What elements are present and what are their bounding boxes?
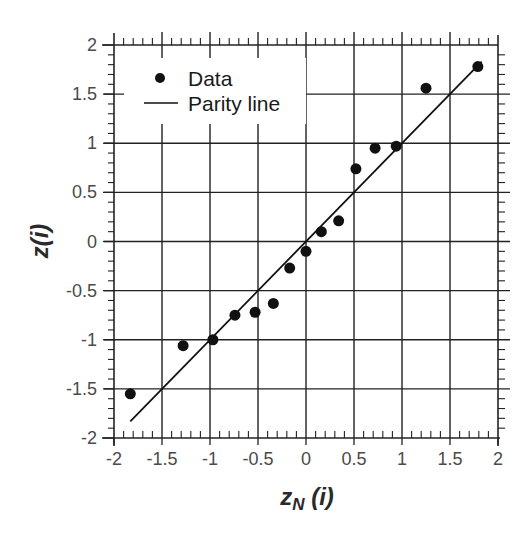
x-tick-label: -1 xyxy=(202,449,218,469)
y-tick-label: -1 xyxy=(81,330,97,350)
data-point xyxy=(301,246,312,257)
data-point xyxy=(391,141,402,152)
data-point xyxy=(125,388,136,399)
data-point xyxy=(472,61,483,72)
data-point xyxy=(316,226,327,237)
qq-scatter-chart: Data Parity line -2-1.5-1-0.500.511.5221… xyxy=(0,0,530,542)
y-tick-label: -1.5 xyxy=(66,379,97,399)
data-point xyxy=(284,263,295,274)
y-tick-label: 1.5 xyxy=(72,84,97,104)
x-tick-label: 1.5 xyxy=(437,449,462,469)
y-tick-label: 0 xyxy=(87,232,97,252)
legend: Data Parity line xyxy=(124,58,306,124)
x-tick-label: 0 xyxy=(301,449,311,469)
x-tick-label: -2 xyxy=(106,449,122,469)
data-point xyxy=(268,298,279,309)
data-point xyxy=(178,340,189,351)
data-point xyxy=(229,310,240,321)
legend-label-data: Data xyxy=(188,67,233,90)
x-tick-label: 0.5 xyxy=(341,449,366,469)
data-point xyxy=(421,83,432,94)
data-point xyxy=(333,215,344,226)
y-tick-label: 1 xyxy=(87,133,97,153)
y-axis-title: z(i) xyxy=(26,224,53,260)
x-tick-label: -0.5 xyxy=(242,449,273,469)
y-tick-label: 0.5 xyxy=(72,182,97,202)
data-point xyxy=(370,143,381,154)
data-point xyxy=(207,334,218,345)
y-tick-label: -0.5 xyxy=(66,281,97,301)
x-axis-title: zN (i) xyxy=(279,483,334,514)
x-tick-label: 1 xyxy=(397,449,407,469)
chart-canvas: Data Parity line -2-1.5-1-0.500.511.5221… xyxy=(0,0,530,542)
legend-data-marker-icon xyxy=(155,73,165,83)
data-point xyxy=(350,163,361,174)
y-tick-label: 2 xyxy=(87,35,97,55)
y-tick-label: -2 xyxy=(81,428,97,448)
x-tick-label: -1.5 xyxy=(146,449,177,469)
legend-label-parity-line: Parity line xyxy=(188,92,280,115)
x-tick-label: 2 xyxy=(493,449,503,469)
data-point xyxy=(250,307,261,318)
